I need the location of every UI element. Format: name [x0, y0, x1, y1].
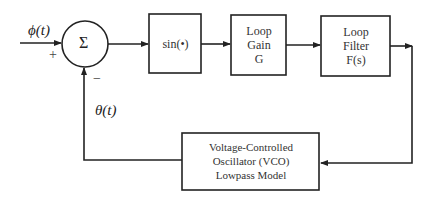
plus-sign: +	[49, 47, 57, 63]
vco-block-label: Voltage-Controlled Oscillator (VCO) Lowp…	[182, 140, 320, 182]
feedback-signal-label: θ(t)	[95, 102, 117, 119]
sigma-symbol: Σ	[79, 34, 88, 52]
sin-block-label: sin(•)	[149, 37, 202, 51]
loop-gain-block-label: Loop Gain G	[231, 24, 287, 66]
minus-sign: −	[93, 71, 101, 87]
loop-filter-block-label: Loop Filter F(s)	[321, 25, 391, 67]
input-signal-label: ϕ(t)	[28, 22, 50, 39]
